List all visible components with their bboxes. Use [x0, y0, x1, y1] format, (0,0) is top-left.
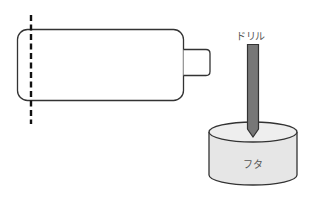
bottle-body [18, 30, 184, 101]
drill-bit [248, 45, 259, 138]
lid-label: フタ [243, 156, 262, 171]
drill-label: ドリル [236, 28, 265, 43]
bottle-cap [184, 50, 211, 76]
diagram-canvas [0, 0, 312, 198]
